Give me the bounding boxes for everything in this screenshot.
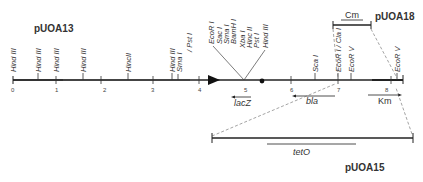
gene-teto: tetO — [293, 147, 310, 157]
puoa15-dashed-lines — [212, 84, 412, 136]
gene-lacz: lacZ — [234, 98, 252, 108]
site-hindiii-1: Hind III — [9, 48, 18, 72]
mcs-site-bamhi: BamH I — [229, 19, 238, 44]
scale-label-0: 0 — [11, 87, 15, 93]
scale-label-8: 8 — [385, 87, 389, 93]
mcs-site-hindiii: Hind III — [261, 24, 270, 48]
gene-cm: Cm — [345, 10, 359, 20]
plasmid-name-puoa18: pUOA18 — [375, 11, 415, 22]
site-psti: / Pst I — [185, 33, 194, 53]
right-site-ticks — [315, 73, 397, 84]
site-hincii: HincII — [124, 53, 133, 72]
scale-label-4: 4 — [198, 87, 202, 93]
mcs-site-psti: Pst I — [252, 33, 261, 48]
scale-label-7: 7 — [337, 87, 341, 93]
puoa15-insert-line — [212, 133, 413, 143]
bla-arrow-icon — [292, 95, 296, 98]
cm-bracket — [333, 20, 371, 29]
site-ecorv-1: EcoR V — [347, 46, 356, 72]
site-hindiii-3: Hind III — [52, 48, 61, 72]
mcs-fan-lines — [213, 46, 265, 80]
plasmid-map-diagram: pUOA13 pUOA18 pUOA15 0 1 2 3 4 5 6 7 8 H… — [0, 0, 423, 182]
site-scai: Sca I — [311, 55, 320, 72]
site-hindiii-4: Hind III — [79, 48, 88, 72]
site-ecorv-2: EcoR V — [393, 46, 402, 72]
scale-label-2: 2 — [103, 87, 107, 93]
scale-label-3: 3 — [151, 87, 155, 93]
scale-label-5: 5 — [244, 87, 248, 93]
promoter-arrow-icon — [208, 75, 220, 85]
plasmid-name-puoa13: pUOA13 — [34, 23, 74, 34]
gene-km: Km — [378, 96, 392, 106]
scale-label-6: 6 — [290, 87, 294, 93]
plasmid-name-puoa15: pUOA15 — [345, 162, 385, 173]
site-smai: Sma I — [175, 52, 184, 72]
marker-dot-icon — [260, 79, 265, 84]
site-hindiii-2: Hind III — [34, 48, 43, 72]
gene-bla: bla — [306, 96, 318, 106]
scale-label-1: 1 — [55, 87, 59, 93]
